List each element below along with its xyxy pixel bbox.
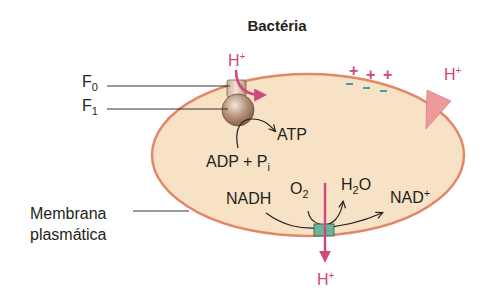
svg-text:+: + [383,66,392,83]
label-atp: ATP [277,126,307,143]
proton-right: H+ [444,65,462,83]
label-membrane: Membrana [30,205,107,222]
label-membrane-line2: plasmática [30,226,107,243]
proton-bottom: H+ [317,270,335,288]
proton-top: H+ [228,51,246,69]
label-nadh: NADH [226,190,271,207]
bacteria-membrane-diagram: Bactéria + + + H+ H+ F0 F1 ATP ADP + Pi … [0,0,495,306]
svg-text:+: + [349,62,358,79]
label-f0: F0 [82,73,98,93]
svg-text:+: + [366,66,375,83]
label-f1: F1 [82,97,98,117]
diagram-title: Bactéria [247,17,307,34]
